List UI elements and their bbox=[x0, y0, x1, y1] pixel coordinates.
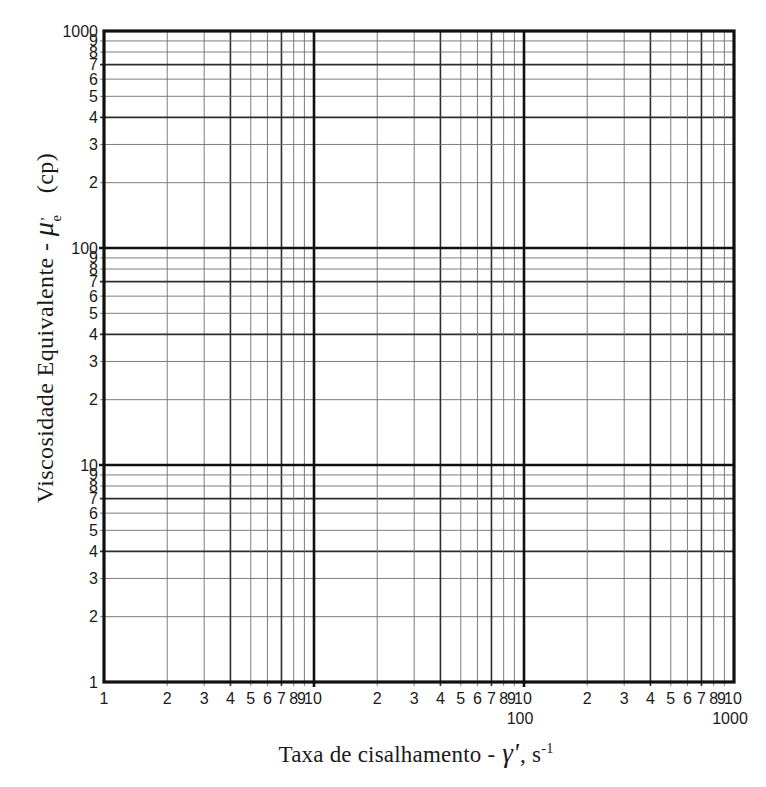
log-log-graph-paper: 1000987654321009876543210987654321123456… bbox=[0, 0, 766, 787]
y-tick-label-3: 3 bbox=[89, 570, 98, 587]
x-axis-title: Taxa de cisalhamento - γ', s-1 bbox=[279, 738, 554, 769]
x-axis-title-text: Taxa de cisalhamento - bbox=[279, 742, 502, 767]
x-tick-label-2: 2 bbox=[163, 690, 172, 707]
x-tick-label-100: 10 bbox=[514, 690, 532, 707]
y-tick-label-4: 4 bbox=[89, 543, 98, 560]
y-tick-label-40: 4 bbox=[89, 326, 98, 343]
mu-sub-sup: ’e bbox=[43, 215, 62, 222]
y-tick-label-400: 4 bbox=[89, 109, 98, 126]
y-tick-label-200: 2 bbox=[89, 174, 98, 191]
x-tick-label-200: 2 bbox=[583, 690, 592, 707]
x-tick-label-300: 3 bbox=[620, 690, 629, 707]
y-tick-label-600: 6 bbox=[89, 71, 98, 88]
y-tick-label-50: 5 bbox=[89, 305, 98, 322]
x-tick-label-50: 5 bbox=[456, 690, 465, 707]
y-axis-title: Viscosidade Equivalente - μ’e(cp) bbox=[28, 153, 61, 503]
mu-symbol: μ bbox=[28, 222, 59, 237]
x-tick-label-3: 3 bbox=[200, 690, 209, 707]
y-tick-label-60: 6 bbox=[89, 288, 98, 305]
plot-border bbox=[104, 31, 734, 682]
y-tick-label-5: 5 bbox=[89, 522, 98, 539]
x-tick-label-700: 7 bbox=[697, 690, 706, 707]
x-tick-label-600: 6 bbox=[683, 690, 692, 707]
x-decade-label-1000: 1000 bbox=[712, 710, 748, 727]
x-tick-label-40: 4 bbox=[436, 690, 445, 707]
x-tick-label-5: 5 bbox=[246, 690, 255, 707]
y-tick-label-2: 2 bbox=[89, 608, 98, 625]
x-tick-label-7: 7 bbox=[277, 690, 286, 707]
x-tick-label-4: 4 bbox=[226, 690, 235, 707]
y-tick-label-30: 3 bbox=[89, 353, 98, 370]
y-tick-label-300: 3 bbox=[89, 136, 98, 153]
x-tick-label-500: 5 bbox=[666, 690, 675, 707]
x-tick-label-400: 4 bbox=[646, 690, 655, 707]
y-tick-label-6: 6 bbox=[89, 505, 98, 522]
x-tick-label-6: 6 bbox=[263, 690, 272, 707]
grid-svg: 1000987654321009876543210987654321123456… bbox=[0, 0, 766, 787]
mu-e-subscript: e bbox=[52, 215, 62, 222]
y-axis-unit: (cp) bbox=[32, 153, 58, 193]
gamma-symbol: γ' bbox=[502, 738, 519, 768]
x-tick-label-70: 7 bbox=[487, 690, 496, 707]
x-axis-unit-base: , s bbox=[520, 742, 541, 767]
x-axis-unit-exponent: -1 bbox=[541, 740, 553, 756]
x-tick-label-1: 1 bbox=[100, 690, 109, 707]
x-decade-label-100: 100 bbox=[507, 710, 534, 727]
x-tick-label-30: 3 bbox=[410, 690, 419, 707]
y-tick-label-500: 5 bbox=[89, 88, 98, 105]
x-tick-label-60: 6 bbox=[473, 690, 482, 707]
x-tick-label-1000: 10 bbox=[724, 690, 742, 707]
x-tick-label-20: 2 bbox=[373, 690, 382, 707]
y-tick-label-20: 2 bbox=[89, 391, 98, 408]
x-tick-label-10: 10 bbox=[304, 690, 322, 707]
y-tick-label-1: 1 bbox=[89, 674, 98, 691]
y-axis-title-text: Viscosidade Equivalente - bbox=[32, 236, 58, 503]
